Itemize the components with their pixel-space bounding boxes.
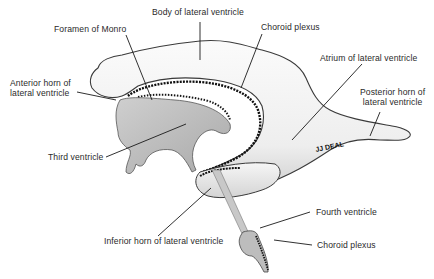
label-choroid-plexus-top: Choroid plexus: [261, 22, 320, 32]
label-fourth-ventricle: Fourth ventricle: [316, 207, 377, 217]
label-choroid-plexus-bottom: Choroid plexus: [317, 240, 376, 250]
label-inferior-horn: Inferior horn of lateral ventricle: [104, 236, 223, 246]
label-posterior-horn-line1: Posterior horn of: [360, 87, 425, 97]
label-posterior-horn-line2: lateral ventricle: [360, 97, 425, 107]
label-body-of-lateral-ventricle: Body of lateral ventricle: [152, 7, 244, 17]
label-third-ventricle: Third ventricle: [48, 152, 103, 162]
label-posterior-horn: Posterior horn of lateral ventricle: [360, 87, 425, 107]
label-anterior-horn-line1: Anterior horn of: [10, 78, 71, 88]
label-anterior-horn-line2: lateral ventricle: [10, 88, 71, 98]
label-anterior-horn: Anterior horn of lateral ventricle: [10, 78, 71, 98]
label-foramen-of-monro: Foramen of Monro: [54, 24, 126, 34]
fourth-ventricle: [239, 231, 268, 272]
label-atrium: Atrium of lateral ventricle: [320, 53, 417, 63]
